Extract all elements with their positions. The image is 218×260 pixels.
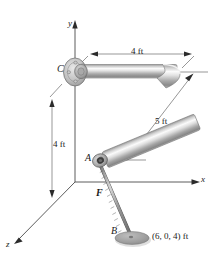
bolt-hole (67, 71, 70, 74)
pipe-segment-diagonal (102, 114, 201, 168)
point-b-label: B (111, 226, 117, 236)
statics-figure: y x z C A B F 4 ft 4 ft 5 ft (6, 0, 4) f… (0, 0, 218, 260)
dimension-horizontal-top-label: 4 ft (131, 47, 143, 56)
wall-flange-c (64, 58, 88, 86)
bolt-hole (74, 80, 77, 83)
figure-canvas (0, 0, 218, 260)
z-axis-line (18, 182, 75, 240)
y-axis-label: y (68, 19, 72, 28)
z-axis-label: z (6, 240, 10, 249)
force-label: F (96, 188, 103, 198)
point-c-label: C (57, 64, 64, 74)
dimension-diagonal-label: 5 ft (155, 117, 167, 126)
ground-disc-b (115, 232, 151, 247)
x-axis-label: x (201, 175, 205, 184)
point-a-label: A (85, 153, 91, 163)
coordinate-annotation-label: (6, 0, 4) ft (152, 232, 188, 241)
dimension-vertical-left-label: 4 ft (53, 140, 65, 149)
bolt-hole (74, 61, 77, 64)
